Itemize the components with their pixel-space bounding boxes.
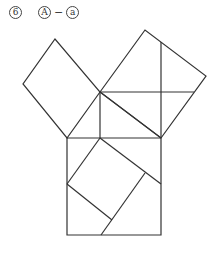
inner-line-4 [101, 173, 145, 235]
hypotenuse-square [67, 138, 161, 235]
hypotenuse [100, 92, 161, 138]
left-square [23, 39, 100, 138]
inner-line-2 [67, 138, 100, 184]
right-square [100, 30, 206, 138]
inner-line-1 [100, 138, 161, 184]
inner-line-3 [67, 184, 112, 220]
pythagoras-diagram [0, 0, 223, 256]
